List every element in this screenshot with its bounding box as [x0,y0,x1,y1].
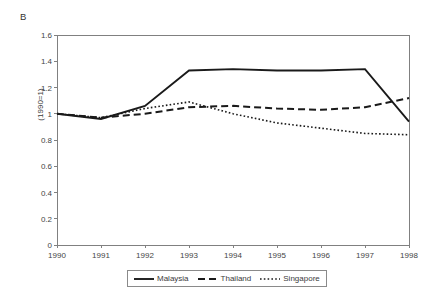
legend-swatch-solid-icon [134,275,154,283]
legend-entry-malaysia: Malaysia [134,274,189,283]
legend-entry-thailand: Thailand [198,274,252,283]
legend-label: Malaysia [157,274,189,283]
chart-legend: MalaysiaThailandSingapore [127,270,327,287]
x-axis-tick-labels: 199019911992199319941995199619971998 [0,0,428,299]
x-tick-label: 1992 [136,251,154,260]
x-tick-label: 1996 [312,251,330,260]
x-tick-label: 1993 [180,251,198,260]
legend-swatch-dotted-icon [260,275,280,283]
x-tick-label: 1990 [48,251,66,260]
legend-swatch-dashed-icon [198,275,218,283]
chart-figure: B (1990=1) 00.20.40.60.811.21.41.6 19901… [0,0,428,299]
legend-label: Thailand [221,274,252,283]
x-tick-label: 1994 [224,251,242,260]
x-tick-label: 1995 [268,251,286,260]
x-tick-label: 1998 [400,251,418,260]
legend-label: Singapore [283,274,319,283]
legend-entry-singapore: Singapore [260,274,319,283]
x-tick-label: 1991 [92,251,110,260]
x-tick-label: 1997 [356,251,374,260]
